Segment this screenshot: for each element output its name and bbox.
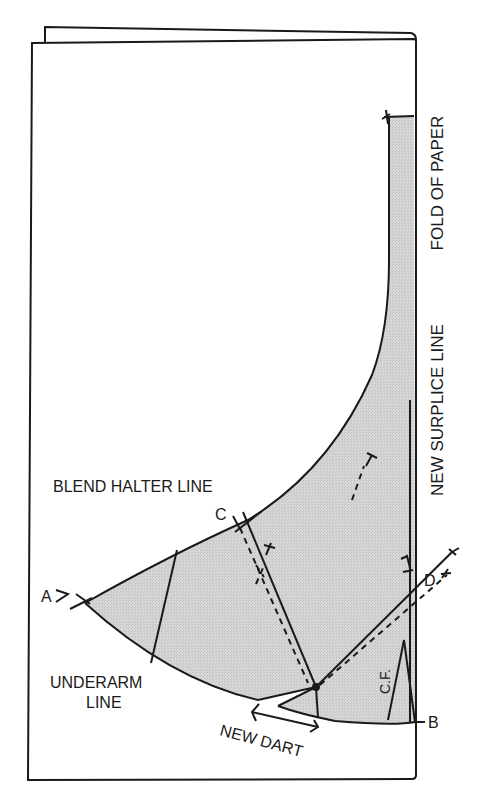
label-blend-halter-line: BLEND HALTER LINE	[53, 478, 213, 495]
label-point-b: B	[428, 714, 439, 731]
label-center-front: C.F.	[377, 669, 393, 694]
label-point-a: A	[41, 588, 52, 605]
pattern-diagram: FOLD OF PAPER NEW SURPLICE LINE BLEND HA…	[0, 0, 477, 801]
label-fold-of-paper: FOLD OF PAPER	[428, 116, 447, 251]
dart-point	[312, 683, 320, 691]
label-underarm-2: LINE	[86, 694, 122, 711]
label-underarm-1: UNDERARM	[50, 674, 142, 691]
label-point-c: C	[215, 506, 227, 523]
label-new-surplice-line: NEW SURPLICE LINE	[428, 324, 447, 496]
label-point-d: D	[424, 572, 436, 589]
